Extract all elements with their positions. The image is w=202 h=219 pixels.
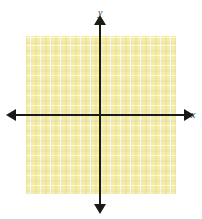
y-axis-line (99, 22, 101, 208)
x-axis-arrow-left-icon (6, 109, 16, 121)
y-axis-label: y (98, 8, 102, 18)
x-axis-line (13, 114, 189, 116)
coordinate-plane-figure: y x (0, 0, 202, 219)
x-axis-label: x (191, 110, 195, 120)
y-axis-arrow-down-icon (94, 204, 106, 214)
